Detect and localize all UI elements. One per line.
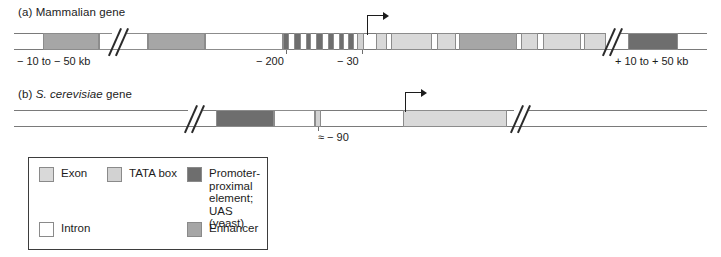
- tss-arrowhead-icon: [421, 89, 427, 97]
- segment-promoter-proximal: [283, 33, 289, 50]
- segment-tata-box: [315, 110, 321, 127]
- segment-exon-4: [521, 33, 538, 50]
- break-mark: [512, 106, 530, 132]
- track-bottom-rule: [14, 126, 707, 127]
- tss-vertical-stem: [405, 92, 406, 112]
- segment-exon: [403, 110, 507, 127]
- segment-spacer: [274, 110, 315, 127]
- segment-promoter-proximal: [316, 33, 323, 50]
- segment-promoter-proximal: [306, 33, 311, 50]
- legend-item-tata-box: TATA box: [107, 167, 177, 182]
- segment-exon-5: [543, 33, 581, 50]
- segment-promoter-proximal: [348, 33, 354, 50]
- transcription-start-arrow: [367, 15, 393, 35]
- break-mark: [186, 106, 204, 132]
- legend-item-exon: Exon: [39, 167, 87, 182]
- legend-label-intron: Intron: [61, 222, 90, 235]
- segment-tata-box: [357, 33, 364, 50]
- legend-swatch-tata-box: [107, 167, 122, 182]
- segment-promoter-proximal: [328, 33, 334, 50]
- tss-vertical-stem: [367, 15, 368, 35]
- segment-exon-6: [584, 33, 606, 50]
- segment-promoter-proximal: [628, 33, 678, 50]
- tss-arrowhead-icon: [383, 12, 389, 20]
- mammalian-gene-track: [0, 33, 721, 50]
- segment-promoter-proximal: [339, 33, 344, 50]
- tss-horizontal-arm: [367, 15, 384, 16]
- legend-swatch-intron: [39, 222, 54, 237]
- segment-enhancer: [148, 33, 205, 50]
- coordinate-tick: [362, 50, 363, 54]
- legend-label-exon: Exon: [61, 167, 87, 180]
- mammalian-minus200-label: − 200: [256, 55, 284, 67]
- break-mark: [110, 29, 128, 55]
- legend-item-enhancer: Enhancer: [187, 222, 258, 237]
- legend-label-promoter-proximal: Promoter- proximal element; UAS (yeast): [209, 167, 267, 230]
- track-top-rule: [14, 110, 707, 111]
- legend-box: ExonTATA boxPromoter- proximal element; …: [28, 157, 268, 250]
- panel-a-prefix: (a): [18, 6, 32, 18]
- panel-b-name: gene: [106, 88, 132, 100]
- segment-exon-1: [376, 33, 387, 50]
- legend-item-intron: Intron: [39, 222, 90, 237]
- yeast-gene-track: [0, 110, 721, 127]
- legend-swatch-promoter-proximal: [187, 167, 202, 182]
- segment-exon-2: [391, 33, 432, 50]
- segment-uas: [216, 110, 274, 127]
- mammalian-right-coordinate-label: + 10 to + 50 kb: [615, 55, 688, 67]
- coordinate-tick: [286, 50, 287, 54]
- panel-b-species: S. cerevisiae: [36, 88, 103, 100]
- legend-label-tata-box: TATA box: [129, 167, 177, 180]
- legend-swatch-enhancer: [187, 222, 202, 237]
- segment-intron-spacer-2: [205, 33, 283, 50]
- mammalian-left-coordinate-label: − 10 to − 50 kb: [17, 55, 90, 67]
- legend-swatch-exon: [39, 167, 54, 182]
- legend-item-promoter-proximal: Promoter- proximal element; UAS (yeast): [187, 167, 267, 230]
- segment-promoter-proximal: [294, 33, 301, 50]
- segment-enhancer: [459, 33, 517, 50]
- panel-a-title: (a) Mammalian gene: [18, 6, 125, 18]
- tss-horizontal-arm: [405, 92, 422, 93]
- yeast-minus90-label: ≈ − 90: [318, 131, 349, 143]
- mammalian-minus30-label: − 30: [337, 55, 359, 67]
- panel-b-title: (b) S. cerevisiae gene: [18, 88, 132, 100]
- panel-b-prefix: (b): [18, 88, 32, 100]
- segment-enhancer: [43, 33, 99, 50]
- panel-a-name: Mammalian gene: [36, 6, 126, 18]
- legend-label-enhancer: Enhancer: [209, 222, 258, 235]
- transcription-start-arrow: [405, 92, 431, 112]
- break-mark: [604, 29, 622, 55]
- segment-exon-3: [437, 33, 456, 50]
